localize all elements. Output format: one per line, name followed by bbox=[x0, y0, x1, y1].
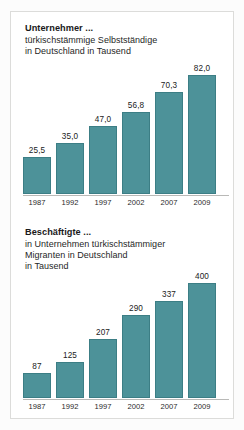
bar-slot: 25,5 bbox=[23, 64, 51, 194]
bar-value-label: 25,5 bbox=[29, 146, 45, 155]
chart-1-bars: 25,535,047,056,870,382,0 bbox=[23, 64, 223, 194]
chart-2-bars: 87125207290337400 bbox=[23, 272, 223, 398]
bar-value-label: 337 bbox=[162, 290, 176, 299]
axis-tick-label: 1987 bbox=[23, 402, 51, 411]
bar bbox=[89, 339, 117, 399]
chart-2-subtitle-line-2: Migranten in Deutschland bbox=[25, 250, 225, 261]
chart-2-header: Beschäftigte ... in Unternehmen türkisch… bbox=[25, 227, 225, 272]
bar bbox=[122, 315, 150, 398]
bar-value-label: 400 bbox=[195, 272, 209, 281]
axis-tick-label: 2007 bbox=[155, 198, 183, 207]
chart-unternehmer: Unternehmer ... türkischstämmige Selbsts… bbox=[11, 12, 235, 216]
bar bbox=[23, 157, 51, 194]
chart-1-title: Unternehmer ... bbox=[25, 23, 225, 35]
axis-tick-label: 2007 bbox=[155, 402, 183, 411]
axis-tick-label: 2009 bbox=[188, 198, 216, 207]
bar-value-label: 125 bbox=[63, 351, 77, 360]
bar-value-label: 82,0 bbox=[194, 64, 210, 73]
bar-slot: 207 bbox=[89, 272, 117, 398]
bar-slot: 125 bbox=[56, 272, 84, 398]
bar-value-label: 87 bbox=[32, 362, 41, 371]
bar-slot: 290 bbox=[122, 272, 150, 398]
bar bbox=[122, 112, 150, 194]
bar-value-label: 290 bbox=[129, 304, 143, 313]
bar-slot: 400 bbox=[188, 272, 216, 398]
axis-tick-label: 1992 bbox=[56, 198, 84, 207]
bar-slot: 87 bbox=[23, 272, 51, 398]
chart-2-title: Beschäftigte ... bbox=[25, 227, 225, 239]
chart-2-axis-line bbox=[23, 399, 229, 400]
chart-2-subtitle-line-3: in Tausend bbox=[25, 261, 225, 272]
axis-tick-label: 2009 bbox=[188, 402, 216, 411]
chart-beschaeftigte: Beschäftigte ... in Unternehmen türkisch… bbox=[11, 216, 235, 420]
axis-tick-label: 2002 bbox=[122, 198, 150, 207]
bar-slot: 82,0 bbox=[188, 64, 216, 194]
bar bbox=[155, 301, 183, 398]
bar bbox=[188, 283, 216, 398]
chart-1-header: Unternehmer ... türkischstämmige Selbsts… bbox=[25, 23, 225, 57]
bar bbox=[23, 373, 51, 398]
bar-value-label: 47,0 bbox=[95, 115, 111, 124]
bar bbox=[188, 75, 216, 194]
bar bbox=[56, 143, 84, 194]
bar-value-label: 35,0 bbox=[62, 132, 78, 141]
bar-slot: 337 bbox=[155, 272, 183, 398]
bar bbox=[56, 362, 84, 398]
chart-1-subtitle-line-1: türkischstämmige Selbstständige bbox=[25, 35, 225, 46]
content-panel: Unternehmer ... türkischstämmige Selbsts… bbox=[10, 11, 234, 419]
axis-tick-label: 1997 bbox=[89, 198, 117, 207]
axis-tick-label: 2002 bbox=[122, 402, 150, 411]
bar-value-label: 70,3 bbox=[161, 81, 177, 90]
bar-value-label: 207 bbox=[96, 328, 110, 337]
chart-2-axis-labels: 198719921997200220072009 bbox=[23, 402, 223, 411]
bar-slot: 47,0 bbox=[89, 64, 117, 194]
axis-tick-label: 1992 bbox=[56, 402, 84, 411]
chart-2-plot-area: 87125207290337400 bbox=[23, 272, 223, 398]
bar-slot: 35,0 bbox=[56, 64, 84, 194]
bar bbox=[155, 92, 183, 194]
axis-tick-label: 1997 bbox=[89, 402, 117, 411]
chart-1-subtitle-line-2: in Deutschland in Tausend bbox=[25, 46, 225, 57]
bar bbox=[89, 126, 117, 194]
bar-slot: 56,8 bbox=[122, 64, 150, 194]
chart-2-subtitle-line-1: in Unternehmen türkischstämmiger bbox=[25, 239, 225, 250]
chart-1-axis-labels: 198719921997200220072009 bbox=[23, 198, 223, 207]
chart-1-plot-area: 25,535,047,056,870,382,0 bbox=[23, 64, 223, 194]
bar-value-label: 56,8 bbox=[128, 101, 144, 110]
bar-slot: 70,3 bbox=[155, 64, 183, 194]
infographic-root: Unternehmer ... türkischstämmige Selbsts… bbox=[0, 0, 244, 430]
chart-1-axis-line bbox=[23, 195, 229, 196]
axis-tick-label: 1987 bbox=[23, 198, 51, 207]
